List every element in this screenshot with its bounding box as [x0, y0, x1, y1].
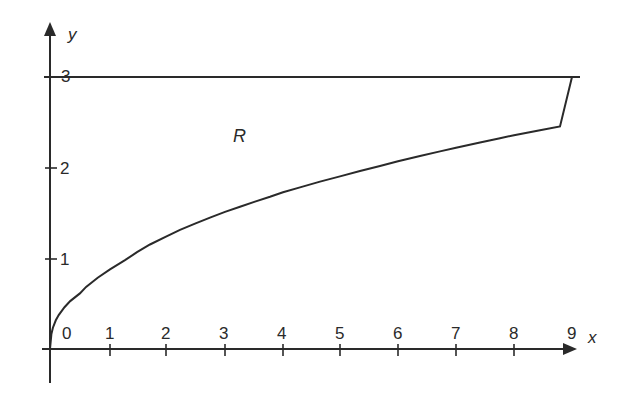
origin-label: 0 — [62, 325, 71, 342]
x-tick-label-2: 2 — [161, 325, 170, 342]
region-label: R — [233, 127, 246, 145]
plot-area — [0, 0, 628, 395]
x-tick-label-7: 7 — [451, 325, 460, 342]
x-tick-label-9: 9 — [567, 325, 576, 342]
y-axis-label: y — [68, 26, 77, 43]
x-tick-label-5: 5 — [335, 325, 344, 342]
curve-sqrt-x — [50, 77, 572, 349]
y-axis-arrow-icon — [44, 22, 56, 36]
x-tick-label-1: 1 — [105, 325, 114, 342]
x-axis-arrow-icon — [563, 343, 577, 355]
x-tick-label-6: 6 — [393, 325, 402, 342]
y-tick-label-3: 3 — [61, 68, 70, 85]
y-tick-label-1: 1 — [60, 251, 69, 268]
x-axis-label: x — [588, 329, 597, 346]
x-tick-label-4: 4 — [277, 325, 286, 342]
x-tick-label-3: 3 — [219, 325, 228, 342]
x-tick-label-8: 8 — [509, 325, 518, 342]
y-tick-label-2: 2 — [60, 160, 69, 177]
